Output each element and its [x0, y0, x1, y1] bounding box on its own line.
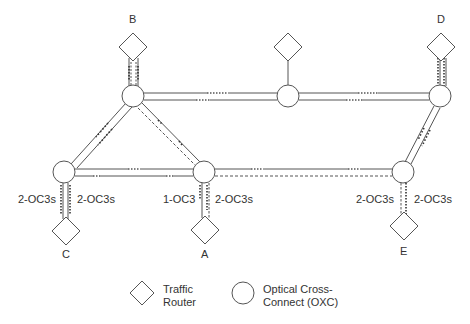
legend-oxc-label: Optical Cross- Connect (OXC): [263, 283, 338, 309]
access-link-d: [438, 58, 446, 86]
oxc-node-a: [193, 161, 215, 183]
router-label-a: A: [201, 248, 208, 261]
access-link-c: [61, 183, 70, 219]
link-label-e-left: 2-OC3s: [356, 193, 394, 206]
network-diagram: [0, 0, 470, 324]
legend-router-label: Traffic Router: [163, 283, 196, 309]
link-mid-d: [299, 93, 429, 100]
router-label-d: D: [437, 13, 445, 26]
router-label-e: E: [400, 245, 407, 258]
router-label-b: B: [129, 13, 136, 26]
access-link-e: [401, 183, 406, 214]
legend-router-icon: [130, 281, 154, 305]
access-link-b: [129, 58, 138, 86]
oxc-node-d: [429, 85, 451, 107]
router-node-b: [119, 33, 147, 61]
link-b-a: [138, 103, 200, 165]
link-label-c-right: 2-OC3s: [77, 193, 115, 206]
legend-oxc-line1: Optical Cross-: [263, 283, 338, 296]
oxc-node-b: [122, 85, 144, 107]
link-a-e: [215, 169, 392, 176]
router-node-mid: [274, 33, 302, 61]
link-label-a-left: 1-OC3: [163, 193, 195, 206]
router-label-c: C: [62, 248, 70, 261]
link-b-mid: [144, 93, 277, 100]
link-label-a-right: 2-OC3s: [215, 193, 253, 206]
router-node-e: [390, 212, 418, 240]
link-label-c-left: 2-OC3s: [18, 193, 56, 206]
router-node-a: [191, 216, 219, 244]
oxc-node-e: [392, 161, 414, 183]
link-b-c: [71, 103, 132, 168]
oxc-node-mid: [277, 85, 299, 107]
router-node-d: [427, 33, 455, 61]
link-d-e: [405, 106, 440, 164]
legend-router-line2: Router: [163, 296, 196, 309]
link-label-e-right: 2-OC3s: [414, 193, 452, 206]
link-c-a: [75, 169, 193, 176]
legend-oxc-line2: Connect (OXC): [263, 296, 338, 309]
legend-router-line1: Traffic: [163, 283, 196, 296]
router-node-c: [52, 217, 80, 245]
access-link-a: [200, 183, 209, 218]
legend-oxc-icon: [232, 282, 254, 304]
oxc-node-c: [53, 161, 75, 183]
